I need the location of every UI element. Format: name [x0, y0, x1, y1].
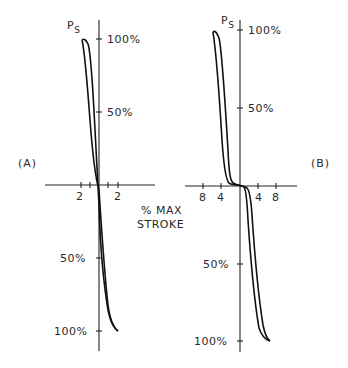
panel-a-ytick-label: 100%: [107, 33, 140, 46]
panel-b-xtick-label: 4: [217, 191, 225, 204]
panel-b-ytick-label: 100%: [248, 24, 281, 37]
panel-a-label: (A): [18, 157, 37, 170]
panel-a-ytick-label: 50%: [60, 252, 86, 265]
panel-a-ps-label: PS: [67, 19, 80, 35]
panel-b-ytick-label: 50%: [248, 102, 274, 115]
panel-b: PS 100% 50% 50% 100% 8 4 4 8 (B): [185, 14, 330, 352]
panel-b-ps-label: PS: [221, 14, 234, 30]
figure-canvas: PS 100% 50% 50% 100% 2 2 (A) PS 100% 50%…: [0, 0, 348, 368]
panel-a-ytick-label: 100%: [54, 325, 87, 338]
panel-b-ytick-label: 100%: [194, 335, 227, 348]
panel-b-label: (B): [311, 157, 330, 170]
panel-b-xtick-label: 8: [199, 191, 207, 204]
x-axis-label-line1: % MAX: [141, 204, 182, 217]
panel-a-xtick-label: 2: [114, 190, 122, 203]
panel-a-ytick-label: 50%: [107, 106, 133, 119]
panel-b-ytick-label: 50%: [203, 258, 229, 271]
x-axis-label-line2: STROKE: [137, 218, 184, 231]
panel-a: PS 100% 50% 50% 100% 2 2 (A): [18, 19, 155, 351]
panel-b-xtick-label: 8: [272, 191, 280, 204]
panel-a-xtick-label: 2: [76, 190, 84, 203]
panel-b-xtick-label: 4: [255, 191, 263, 204]
